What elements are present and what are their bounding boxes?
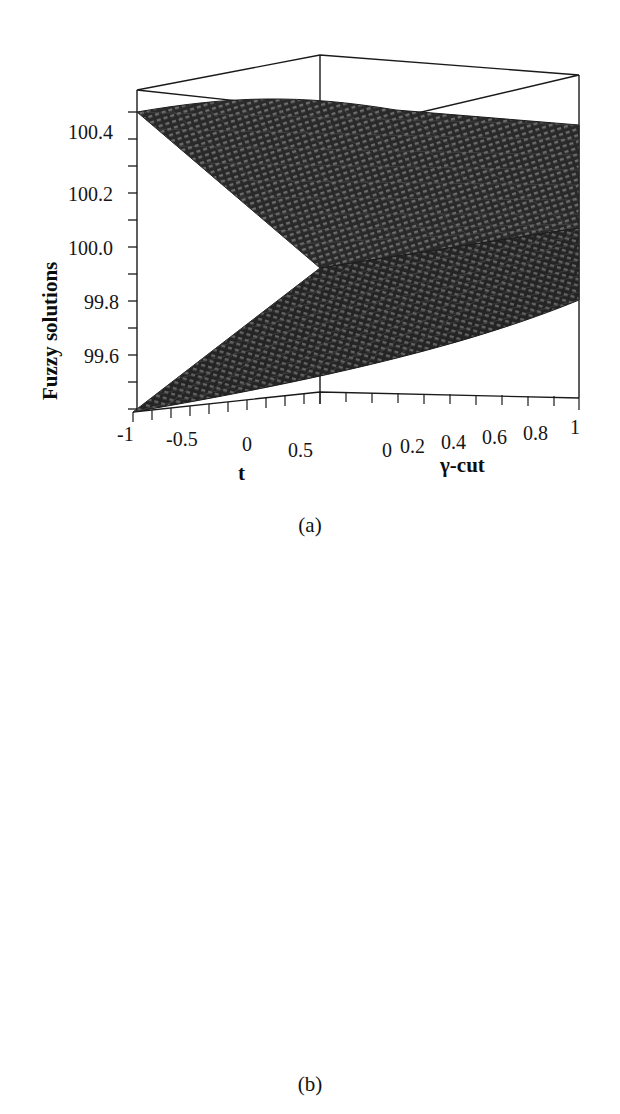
axis-title-t-a: t <box>238 463 245 484</box>
tick-label-z-a: 100.0 <box>68 238 113 258</box>
tick-label-z-a: 100.4 <box>68 122 113 142</box>
tick-label-t-a: -1 <box>117 424 134 444</box>
tick-label-gamma-a: 0 <box>382 440 392 460</box>
axis-title-gamma-a: γ-cut <box>440 455 485 476</box>
tick-label-gamma-a: 0.2 <box>400 436 425 456</box>
tick-label-z-a: 100.2 <box>68 184 113 204</box>
tick-label-gamma-a: 0.4 <box>441 432 466 452</box>
axis-title-z-a: Fuzzy solutions <box>40 262 61 400</box>
surface-plot-b <box>0 554 620 1074</box>
axis-ticks-a <box>128 112 137 409</box>
tick-label-t-a: -0.5 <box>166 429 198 449</box>
figure-panel-b: -0.12 -0.10 -0.08 -0.06 -0.04 -0.02 0 0.… <box>0 554 620 1114</box>
tick-label-t-a: 0 <box>242 434 252 454</box>
tick-label-gamma-a: 0.8 <box>523 423 548 443</box>
axis-ticks-y-a <box>320 392 579 410</box>
caption-b: (b) <box>0 1072 620 1097</box>
tick-label-z-a: 99.6 <box>84 346 119 366</box>
tick-label-t-a: 0.5 <box>288 440 313 460</box>
tick-label-gamma-a: 0.6 <box>482 427 507 447</box>
caption-a: (a) <box>0 513 620 538</box>
tick-label-gamma-a: 1 <box>570 417 580 437</box>
tick-label-z-a: 99.8 <box>84 292 119 312</box>
figure-panel-a: 100.4 100.2 100.0 99.8 99.6 -1 -0.5 0 0.… <box>0 0 620 560</box>
